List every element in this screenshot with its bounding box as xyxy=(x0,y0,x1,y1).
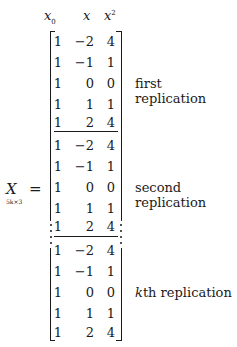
cell: 1 xyxy=(95,306,115,321)
cell: 4 xyxy=(95,243,115,258)
cell: −1 xyxy=(74,55,94,70)
left-bracket-cap-top xyxy=(50,31,55,32)
block-label: kth replication xyxy=(135,285,232,300)
cell: 1 xyxy=(42,201,62,216)
cell: 0 xyxy=(95,76,115,91)
cell: 4 xyxy=(95,138,115,153)
cell: 4 xyxy=(95,325,115,340)
cell: 1 xyxy=(42,325,62,340)
cell: 1 xyxy=(42,180,62,195)
cell: 4 xyxy=(95,34,115,49)
right-bracket-cap-bottom xyxy=(116,340,121,341)
right-bracket-cap-top xyxy=(116,31,121,32)
cell: 1 xyxy=(42,306,62,321)
right-vdots xyxy=(120,224,122,248)
cell: 0 xyxy=(95,285,115,300)
header-x: x xyxy=(83,8,90,23)
cell: −2 xyxy=(74,243,94,258)
cell: 1 xyxy=(95,159,115,174)
header-x0: x0 xyxy=(44,8,56,26)
cell: 1 xyxy=(74,306,94,321)
cell: 1 xyxy=(95,201,115,216)
cell: −2 xyxy=(74,138,94,153)
cell: 1 xyxy=(95,97,115,112)
cell: −2 xyxy=(74,34,94,49)
cell: 4 xyxy=(95,115,115,130)
cell: 1 xyxy=(42,34,62,49)
cell: 1 xyxy=(74,201,94,216)
cell: 4 xyxy=(95,219,115,234)
block-label: first replication xyxy=(135,76,237,106)
cell: 1 xyxy=(42,285,62,300)
cell: 2 xyxy=(74,219,94,234)
cell: 0 xyxy=(74,180,94,195)
cell: −1 xyxy=(74,264,94,279)
cell: 1 xyxy=(42,159,62,174)
cell: 1 xyxy=(42,76,62,91)
matrix-symbol: X xyxy=(6,180,17,198)
cell: 1 xyxy=(95,264,115,279)
cell: 2 xyxy=(74,115,94,130)
right-bracket-top xyxy=(121,31,122,221)
cell: 0 xyxy=(74,285,94,300)
cell: 1 xyxy=(95,55,115,70)
cell: 1 xyxy=(42,138,62,153)
block-separator xyxy=(54,131,118,132)
matrix-dimension: 5k×3 xyxy=(6,198,22,205)
cell: 1 xyxy=(42,219,62,234)
header-x-squared: x2 xyxy=(104,8,116,23)
cell: 1 xyxy=(42,264,62,279)
right-bracket-bottom xyxy=(121,248,122,341)
block-separator xyxy=(54,236,118,237)
cell: 1 xyxy=(42,243,62,258)
cell: 1 xyxy=(42,97,62,112)
cell: −1 xyxy=(74,159,94,174)
left-bracket-cap-bottom xyxy=(50,340,55,341)
cell: 1 xyxy=(74,97,94,112)
cell: 1 xyxy=(42,115,62,130)
cell: 2 xyxy=(74,325,94,340)
equals-sign: = xyxy=(29,180,42,198)
cell: 0 xyxy=(74,76,94,91)
cell: 1 xyxy=(42,55,62,70)
block-label: second replication xyxy=(135,180,237,210)
cell: 0 xyxy=(95,180,115,195)
